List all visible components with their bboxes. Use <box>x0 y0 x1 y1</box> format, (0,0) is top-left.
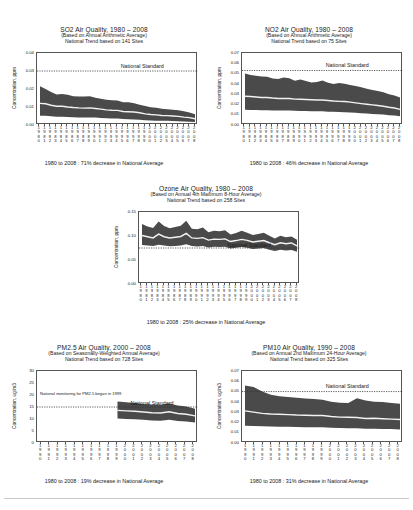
x-tick-label: 2006 <box>380 444 382 461</box>
y-tick-label: 0.05 <box>231 70 239 75</box>
x-tick-label: 2001 <box>359 126 361 143</box>
page-divider <box>4 498 409 499</box>
plot-area-so2: Concentration, ppm0.000.010.020.030.04Na… <box>6 48 202 166</box>
y-axis-ticks: 051015202530 <box>6 366 34 442</box>
y-tick-label: 0.00 <box>128 280 136 285</box>
chart-panel-so2: SO2 Air Quality, 1980 – 2008(Based on An… <box>6 26 202 166</box>
national-standard-label: National Standard <box>326 383 369 389</box>
x-tick: 2008 <box>393 442 401 462</box>
x-axis-ticks: 1980198119821983198419851986198719881989… <box>36 124 197 144</box>
chart-footer: 1980 to 2008 : 19% decrease in National … <box>6 478 202 484</box>
x-tick-label: 1997 <box>303 444 305 461</box>
x-tick: 1996 <box>87 442 95 462</box>
y-tick-label: 0.03 <box>26 67 34 72</box>
y-tick-label: 0.00 <box>26 121 34 126</box>
y-tick-label: 0.03 <box>231 90 239 95</box>
y-tick-label: 0.15 <box>128 208 136 213</box>
y-axis-ticks: 0.000.010.020.030.04 <box>6 48 34 124</box>
x-tick-label: 1989 <box>293 126 295 143</box>
plot-frame: National StandardNational monitoring for… <box>36 370 197 442</box>
x-tick: 2006 <box>377 442 385 462</box>
x-tick-label: 1993 <box>315 126 317 143</box>
x-tick-label: 2005 <box>278 285 280 302</box>
y-tick-label: 0.04 <box>231 80 239 85</box>
x-tick-label: 1995 <box>121 126 123 143</box>
x-tick-label: 2001 <box>154 126 156 143</box>
x-tick-label: 2002 <box>365 126 367 143</box>
x-tick-label: 2005 <box>166 444 168 461</box>
x-tick-label: 1987 <box>178 285 180 302</box>
trend-band-plot <box>37 53 198 125</box>
x-tick-label: 1991 <box>48 444 50 461</box>
national-standard-label: National Standard <box>326 62 369 68</box>
x-tick-label: 1996 <box>331 126 333 143</box>
x-tick-label: 1997 <box>98 444 100 461</box>
x-tick-label: 2005 <box>381 126 383 143</box>
y-tick-label: 0.04 <box>231 398 239 403</box>
x-tick: 1998 <box>104 442 112 462</box>
national-standard-label: National Standard <box>228 242 271 248</box>
x-tick-label: 1981 <box>145 285 147 302</box>
x-tick-label: 1993 <box>110 126 112 143</box>
x-tick: 2004 <box>360 442 368 462</box>
y-tick-label: 0.04 <box>26 49 34 54</box>
x-tick-label: 1996 <box>90 444 92 461</box>
x-tick-label: 1988 <box>287 126 289 143</box>
x-tick-label: 2003 <box>165 126 167 143</box>
air-quality-trends-sheet: SO2 Air Quality, 1980 – 2008(Based on An… <box>0 0 413 510</box>
x-tick-label: 1988 <box>82 126 84 143</box>
x-tick: 1995 <box>78 442 86 462</box>
y-tick-label: 25 <box>29 379 34 384</box>
x-tick: 1998 <box>309 442 317 462</box>
x-tick-label: 1994 <box>278 444 280 461</box>
x-tick-label: 1989 <box>190 285 192 302</box>
x-tick-label: 1989 <box>88 126 90 143</box>
chart-subtitle-sites: National Trend based on 141 Sites <box>6 39 202 45</box>
y-tick-label: 0.02 <box>231 419 239 424</box>
chart-panel-pm25: PM2.5 Air Quality, 2000 – 2008(Based on … <box>6 344 202 484</box>
x-tick: 2003 <box>146 442 154 462</box>
x-tick-label: 2004 <box>273 285 275 302</box>
x-tick: 2007 <box>385 442 393 462</box>
x-tick-label: 1994 <box>115 126 117 143</box>
chart-titles-ozone: Ozone Air Quality, 1980 – 2008(Based on … <box>108 185 304 204</box>
x-tick-label: 2008 <box>193 126 195 143</box>
y-tick-label: 0 <box>32 439 34 444</box>
x-tick-label: 1981 <box>248 126 250 143</box>
x-tick-label: 1980 <box>140 285 142 302</box>
x-tick-label: 2004 <box>171 126 173 143</box>
x-tick-label: 1995 <box>326 126 328 143</box>
x-tick-label: 1990 <box>195 285 197 302</box>
x-tick-label: 2003 <box>149 444 151 461</box>
x-tick-label: 1990 <box>244 444 246 461</box>
x-tick-label: 2002 <box>262 285 264 302</box>
x-tick-label: 1991 <box>253 444 255 461</box>
x-tick-label: 2008 <box>397 444 399 461</box>
x-tick-label: 2003 <box>370 126 372 143</box>
x-tick-label: 1980 <box>243 126 245 143</box>
chart-subtitle-sites: National Trend based on 728 Sites <box>6 357 202 363</box>
x-tick-label: 1999 <box>320 444 322 461</box>
x-tick-label: 2006 <box>175 444 177 461</box>
x-tick-label: 1996 <box>295 444 297 461</box>
x-tick-label: 2000 <box>251 285 253 302</box>
x-tick-label: 2000 <box>124 444 126 461</box>
y-tick-label: 0.10 <box>128 232 136 237</box>
trend-band-plot <box>242 371 403 443</box>
x-axis-ticks: 1980198119821983198419851986198719881989… <box>241 124 402 144</box>
x-tick-label: 2003 <box>354 444 356 461</box>
x-tick: 2000 <box>121 442 129 462</box>
x-tick: 2007 <box>180 442 188 462</box>
x-tick: 2002 <box>343 442 351 462</box>
x-tick-label: 1987 <box>76 126 78 143</box>
x-tick: 1990 <box>241 442 249 462</box>
national-standard-label: National Standard <box>121 63 164 69</box>
x-tick-label: 1997 <box>337 126 339 143</box>
x-tick-label: 1994 <box>320 126 322 143</box>
x-tick-label: 1997 <box>132 126 134 143</box>
x-tick-label: 2000 <box>149 126 151 143</box>
y-tick-label: 0.07 <box>231 367 239 372</box>
x-tick: 2000 <box>326 442 334 462</box>
x-tick: 1997 <box>95 442 103 462</box>
x-tick-label: 1993 <box>64 444 66 461</box>
